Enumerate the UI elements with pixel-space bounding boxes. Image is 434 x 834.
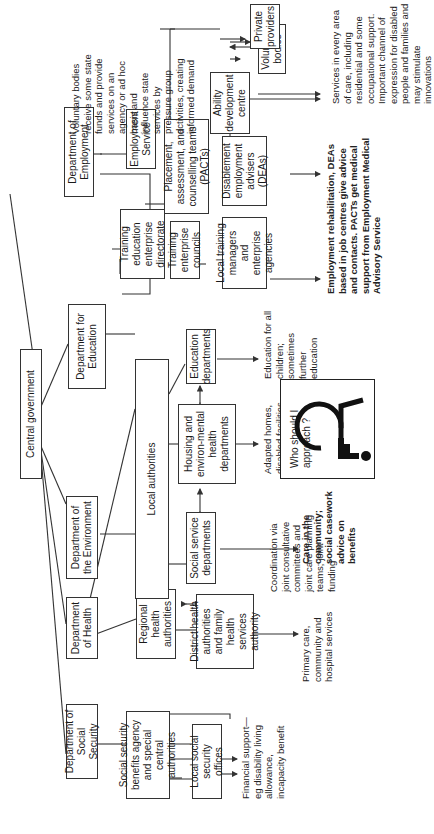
local-training-managers-box: Local training managers and enterprise a… bbox=[222, 217, 267, 289]
local-social-security-offices-box: Local social security offices bbox=[192, 724, 222, 799]
ability-centre-label: Ability development centre bbox=[212, 74, 248, 131]
social-care-note: Care in the community; social casework a… bbox=[300, 482, 358, 564]
department-health-box: Department of Health bbox=[66, 597, 98, 659]
deas-label: Disablement employment advisers (DEAs) bbox=[221, 141, 269, 201]
central-government-label: Central government bbox=[25, 370, 37, 458]
housing-label: Housing and environ-mental health depart… bbox=[183, 409, 231, 479]
education-departments-box: Education departments bbox=[186, 329, 216, 384]
disablement-employment-advisers-box: Disablement employment advisers (DEAs) bbox=[222, 136, 267, 206]
primary-care-note: Primary care, community and hospital ser… bbox=[300, 604, 335, 682]
social-security-benefits-agency-box: Social security benefits agency and spec… bbox=[126, 711, 170, 799]
tecs-label: Training enterprise councils bbox=[167, 226, 203, 274]
employment-outcome-note: Employment rehabilitation, DEAs based in… bbox=[325, 134, 383, 294]
social-service-departments-box: Social service departments bbox=[186, 512, 216, 584]
department-social-security-box: Department of Social Security bbox=[66, 704, 98, 779]
department-education-box: Department for Education bbox=[68, 304, 106, 389]
who-should-i-approach-callout: Who should I approach ? bbox=[280, 379, 375, 479]
local-authorities-label: Local authorities bbox=[146, 443, 158, 516]
local-authorities-box: Local authorities bbox=[135, 359, 169, 599]
regional-health-authorities-box: Regional health authorities bbox=[136, 589, 176, 659]
voluntary-services-note: Services in every area of care, includin… bbox=[330, 0, 434, 104]
regional-health-label: Regional health authorities bbox=[138, 594, 174, 654]
ability-development-centre-box: Ability development centre bbox=[210, 72, 250, 134]
wheelchair-icon bbox=[281, 378, 376, 478]
education-departments-label: Education departments bbox=[189, 329, 213, 385]
private-providers-label: Private providers bbox=[253, 6, 277, 47]
housing-environmental-health-box: Housing and environ-mental health depart… bbox=[178, 404, 236, 484]
central-government-box: Central government bbox=[20, 349, 42, 479]
training-enterprise-councils-box: Training enterprise councils bbox=[170, 221, 200, 279]
teed-label: Training education enterprise directorat… bbox=[119, 214, 167, 274]
private-providers-box: Private providers bbox=[250, 4, 280, 49]
financial-support-note: Financial support—eg disability living a… bbox=[240, 717, 286, 799]
department-education-label: Department for Education bbox=[75, 309, 99, 384]
pacts-label: Placement, assessment, and counselling t… bbox=[163, 124, 211, 209]
social-security-benefits-agency-label: Social security benefits agency and spec… bbox=[118, 716, 178, 794]
department-environment-box: Department of the Environment bbox=[66, 496, 98, 579]
local-social-security-offices-label: Local social security offices bbox=[189, 729, 225, 794]
department-health-label: Department of Health bbox=[70, 602, 94, 654]
training-education-enterprise-directorate-box: Training education enterprise directorat… bbox=[120, 209, 165, 279]
social-service-label: Social service departments bbox=[189, 517, 213, 579]
local-training-label: Local training managers and enterprise a… bbox=[215, 222, 275, 284]
district-health-label: District health authorities and family h… bbox=[189, 599, 261, 664]
voluntary-bodies-note: Voluntary bodies receive some state fund… bbox=[70, 54, 197, 134]
education-outcome-note: Education for all children; sometimes fu… bbox=[262, 309, 320, 379]
department-environment-label: Department of the Environment bbox=[70, 501, 94, 574]
district-health-authorities-box: District health authorities and family h… bbox=[196, 594, 254, 669]
department-social-security-label: Department of Social Security bbox=[64, 709, 100, 774]
